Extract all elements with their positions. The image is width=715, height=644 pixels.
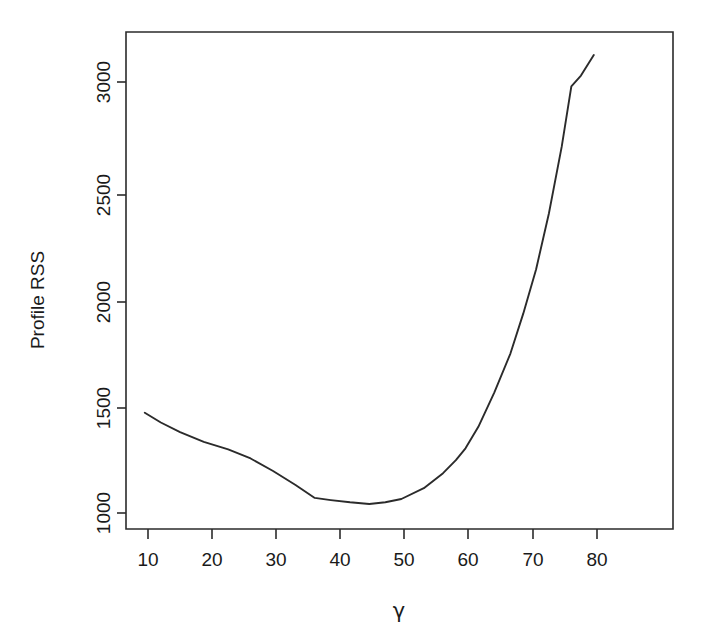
y-tick-label-3000: 3000 [93, 61, 114, 103]
x-tick-label-20: 20 [201, 549, 222, 570]
y-axis-title: Profile RSS [27, 251, 48, 349]
profile-rss-line-chart: 3000 2500 2000 1500 1000 10 20 30 40 50 … [0, 0, 715, 644]
y-tick-label-1500: 1500 [93, 387, 114, 429]
x-axis-tick-labels: 10 20 30 40 50 60 70 80 [137, 549, 607, 570]
chart-figure: 3000 2500 2000 1500 1000 10 20 30 40 50 … [0, 0, 715, 644]
plot-panel-background [126, 32, 673, 529]
x-axis-title: γ [393, 599, 405, 623]
x-tick-label-50: 50 [393, 549, 414, 570]
x-tick-label-70: 70 [522, 549, 543, 570]
y-axis-tick-labels: 3000 2500 2000 1500 1000 [93, 61, 114, 534]
x-tick-label-10: 10 [137, 549, 158, 570]
x-tick-label-60: 60 [457, 549, 478, 570]
x-tick-label-40: 40 [329, 549, 350, 570]
x-tick-label-30: 30 [265, 549, 286, 570]
y-tick-label-2000: 2000 [93, 281, 114, 323]
x-axis-ticks [148, 529, 597, 539]
y-tick-label-2500: 2500 [93, 174, 114, 216]
y-axis-ticks [117, 82, 126, 513]
y-tick-label-1000: 1000 [93, 492, 114, 534]
x-tick-label-80: 80 [586, 549, 607, 570]
